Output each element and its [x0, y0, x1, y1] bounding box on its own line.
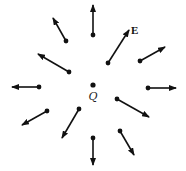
field-vector-label: E	[131, 24, 138, 36]
field-arrow-down	[91, 136, 96, 165]
arrow-tail-dot	[67, 70, 72, 75]
arrow-shaft	[140, 47, 165, 61]
arrow-tail-dot	[45, 109, 50, 114]
field-arrow-up	[91, 5, 96, 37]
arrow-shaft	[117, 99, 149, 117]
field-arrow-right-lower	[115, 97, 149, 117]
arrow-tail-dot	[77, 107, 82, 112]
arrow-tail-dot	[37, 85, 42, 90]
arrow-tail-dot	[106, 61, 111, 66]
field-arrow-left-upper	[38, 54, 71, 74]
field-arrow-left-lower	[22, 109, 49, 125]
field-arrow-lower-left	[62, 107, 81, 138]
arrow-tail-dot	[91, 136, 96, 141]
arrow-tail-dot	[118, 129, 123, 134]
field-arrow-left	[12, 85, 41, 90]
arrow-tail-dot	[64, 39, 69, 44]
arrow-shaft	[38, 54, 69, 72]
arrow-shaft	[53, 18, 66, 41]
field-arrow-upper-left	[53, 18, 68, 43]
arrow-tail-dot	[146, 86, 151, 91]
field-arrow-lower-right	[118, 129, 134, 155]
arrow-shaft	[22, 111, 47, 125]
arrow-tail-dot	[91, 33, 96, 38]
arrow-shaft	[108, 30, 129, 63]
charge-label: Q	[88, 90, 97, 103]
point-charge-dot	[90, 82, 95, 87]
arrow-tail-dot	[138, 59, 143, 64]
field-arrow-right	[146, 86, 176, 91]
arrow-shaft	[62, 109, 79, 138]
arrow-tail-dot	[115, 97, 120, 102]
electric-field-diagram: Q E	[0, 0, 186, 171]
arrow-shaft	[120, 131, 134, 155]
field-arrow-upper-right	[106, 30, 129, 65]
field-arrow-right-upper	[138, 47, 165, 63]
